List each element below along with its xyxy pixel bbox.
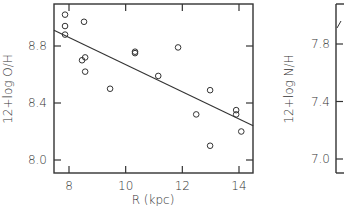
right-y-tick-label: 7.8 [311, 37, 330, 51]
data-point [155, 73, 161, 79]
data-point [62, 23, 68, 29]
x-tick-label: 14 [231, 179, 246, 193]
data-point [175, 45, 181, 51]
right-y-axis-label: 12+log N/H [282, 54, 296, 123]
right-y-ticks: 7.07.47.8 [311, 37, 343, 166]
data-points [62, 12, 244, 149]
right-fit-line-partial [337, 21, 341, 28]
data-point [62, 12, 68, 18]
data-point [238, 129, 244, 135]
y-axis-label: 12+log O/H [1, 54, 15, 124]
left-panel: 8101214 8.08.48.8 R (kpc) 12+log O/H [1, 4, 253, 207]
data-point [207, 87, 213, 93]
x-axis-label: R (kpc) [132, 193, 175, 207]
chart-canvas: 8101214 8.08.48.8 R (kpc) 12+log O/H 7.0… [0, 0, 344, 212]
left-y-ticks: 8.08.48.8 [28, 39, 253, 167]
x-tick-label: 10 [118, 179, 133, 193]
data-point [82, 69, 88, 75]
right-panel: 7.07.47.8 12+log N/H [282, 4, 344, 173]
data-point [107, 86, 113, 92]
y-tick-label: 8.8 [28, 39, 47, 53]
y-tick-label: 8.4 [28, 96, 47, 110]
x-tick-label: 12 [175, 179, 190, 193]
left-plot-frame [54, 4, 253, 173]
data-point [81, 19, 87, 25]
left-x-ticks: 8101214 [65, 4, 246, 193]
fit-line [54, 30, 253, 125]
data-point [193, 112, 199, 118]
right-y-tick-label: 7.0 [311, 152, 330, 166]
y-tick-label: 8.0 [28, 153, 47, 167]
right-y-tick-label: 7.4 [311, 95, 330, 109]
x-tick-label: 8 [65, 179, 73, 193]
data-point [207, 143, 213, 149]
